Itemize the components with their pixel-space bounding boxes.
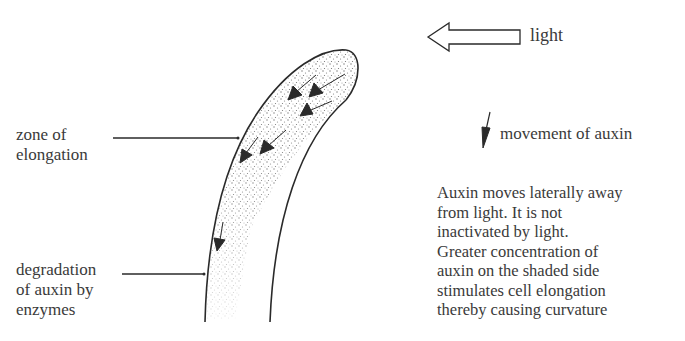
zone-label-line: elongation (16, 145, 88, 165)
degradation-label-line: enzymes (16, 300, 96, 320)
explanation-line: stimulates cell elongation (437, 281, 623, 301)
explanation-text: Auxin moves laterally away from light. I… (437, 183, 623, 320)
legend-label: movement of auxin (500, 124, 632, 144)
legend-down-arrow-icon (482, 112, 490, 148)
degradation-label-line: degradation (16, 260, 96, 280)
degradation-label: degradation of auxin by enzymes (16, 260, 96, 320)
explanation-line: auxin on the shaded side (437, 261, 623, 281)
light-arrow-icon (428, 23, 520, 51)
explanation-line: inactivated by light. (437, 222, 623, 242)
explanation-line: Auxin moves laterally away (437, 183, 623, 203)
light-label: light (530, 25, 563, 45)
auxin-stipple (190, 40, 380, 330)
explanation-line: Greater concentration of (437, 242, 623, 262)
degradation-label-line: of auxin by (16, 280, 96, 300)
explanation-line: thereby causing curvature (437, 300, 623, 320)
zone-of-elongation-label: zone of elongation (16, 125, 88, 165)
zone-label-line: zone of (16, 125, 88, 145)
explanation-line: from light. It is not (437, 203, 623, 223)
